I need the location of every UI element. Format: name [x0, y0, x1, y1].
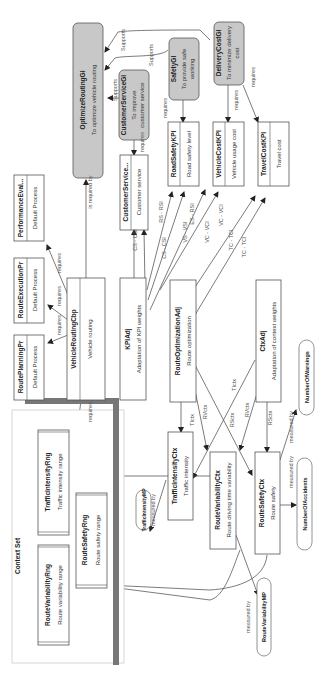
adjustment-kpi[interactable]: KPIAdj Adaptation of KPI weights — [120, 278, 146, 400]
svg-text:TrafficIntensityRng: TrafficIntensityRng — [44, 453, 52, 512]
kpi-travel-cost[interactable]: TravelCostKPI Travel cost — [258, 122, 289, 186]
svg-text:NumberOfAccidents: NumberOfAccidents — [302, 477, 308, 530]
goal-optimize-routing[interactable]: OptimizeRoutingGl To optimize vehicle ro… — [73, 23, 103, 178]
context-set: Context Set RouteVariabilityRng Route va… — [12, 398, 124, 665]
svg-text:measured by: measured by — [245, 601, 251, 633]
svg-text:CtxAdj: CtxAdj — [259, 330, 267, 351]
range-route-safety[interactable]: RouteSafetyRng Route safety range — [76, 493, 107, 588]
svg-text:requires: requires — [56, 253, 62, 273]
svg-text:TrafficIntensityMP: TrafficIntensityMP — [141, 488, 147, 532]
process-route-planning[interactable]: RoutePlanningPr Default Process — [14, 335, 44, 400]
svg-text:CustomerService...: CustomerService... — [122, 162, 129, 221]
svg-text:Road safety level: Road safety level — [186, 131, 192, 177]
process-performance-eval[interactable]: PerformanceEval... Default Process — [14, 175, 44, 241]
svg-text:requires: requires — [87, 402, 93, 422]
svg-text:VehicleCostKPI: VehicleCostKPI — [215, 130, 222, 178]
svg-text:To optimize vehicle routing: To optimize vehicle routing — [91, 65, 97, 136]
svg-text:Default Process: Default Process — [32, 346, 38, 388]
context-route-variability[interactable]: RouteVariabilityCtx Route driving time v… — [210, 452, 236, 549]
svg-text:TIctx: TIctx — [231, 379, 237, 391]
kpi-customer-service[interactable]: CustomerService... Customer service — [120, 155, 148, 230]
svg-text:requires: requires — [162, 98, 168, 118]
goal-delivery-cost[interactable]: DeliveryCostGl To minimize delivery cost — [214, 22, 244, 85]
capability-vehicle-routing[interactable]: VehicleRoutingCbp Vehicle routing — [67, 278, 105, 400]
process-route-execution[interactable]: RouteExecutionPr Default Process — [14, 258, 44, 323]
kpi-vehicle-cost[interactable]: VehicleCostKPI Vehicle usage cost — [213, 122, 244, 186]
svg-text:Vehicle usage cost: Vehicle usage cost — [231, 129, 237, 179]
svg-text:TIctx: TIctx — [189, 414, 195, 426]
svg-text:SafetyGl: SafetyGl — [170, 56, 178, 83]
measure-route-variability[interactable]: RouteVariabilityMP — [257, 578, 271, 656]
svg-text:RouteSafetyCtx: RouteSafetyCtx — [258, 478, 266, 527]
svg-text:Traffic intensity range: Traffic intensity range — [57, 453, 63, 511]
svg-text:VS - VSI: VS - VSI — [182, 221, 188, 243]
svg-text:working: working — [189, 59, 195, 81]
svg-text:To provide safe: To provide safe — [181, 48, 187, 89]
svg-text:Route driving time variability: Route driving time variability — [226, 462, 232, 537]
svg-text:Customer service: Customer service — [136, 168, 142, 215]
svg-text:CS - CSI: CS - CSI — [161, 237, 167, 259]
goal-model-diagram: Context Set RouteVariabilityRng Route va… — [0, 0, 332, 681]
svg-text:RouteVariabilityCtx: RouteVariabilityCtx — [214, 470, 222, 530]
svg-text:NumberOfWarnings: NumberOfWarnings — [304, 351, 310, 403]
measure-number-of-accidents[interactable]: NumberOfAccidents — [297, 458, 312, 550]
svg-text:requires: requires — [56, 286, 62, 306]
svg-text:OptimizeRoutingGl: OptimizeRoutingGl — [79, 70, 87, 129]
context-traffic-intensity[interactable]: TrafficIntensityCtx Traffic intensity — [168, 432, 193, 520]
svg-text:requires: requires — [250, 67, 256, 87]
svg-text:Adaptation of context weights: Adaptation of context weights — [271, 302, 277, 380]
svg-text:measured by: measured by — [288, 411, 294, 443]
svg-text:RVctx: RVctx — [202, 404, 208, 419]
measure-number-of-warnings[interactable]: NumberOfWarnings — [299, 340, 314, 415]
measure-traffic-intensity[interactable]: TrafficIntensityMP — [136, 488, 151, 532]
svg-text:RouteSafetyRng: RouteSafetyRng — [81, 515, 89, 566]
svg-text:DeliveryCostGl: DeliveryCostGl — [215, 30, 223, 77]
svg-text:VehicleRoutingCbp: VehicleRoutingCbp — [70, 309, 78, 369]
svg-text:Traffic intensity: Traffic intensity — [183, 456, 189, 496]
svg-text:RoadSafetyKPI: RoadSafetyKPI — [170, 131, 178, 178]
goal-customer-service[interactable]: CustomerServiceGl To improve customer se… — [119, 70, 149, 140]
svg-text:VC - VCI: VC - VCI — [204, 221, 210, 243]
context-set-title: Context Set — [14, 537, 21, 574]
svg-text:Travel cost: Travel cost — [276, 139, 282, 168]
svg-text:KPIAdj: KPIAdj — [124, 328, 132, 350]
svg-text:RouteVariabilityMP: RouteVariabilityMP — [261, 592, 267, 642]
svg-text:cost: cost — [234, 47, 240, 58]
svg-text:CustomerServiceGl: CustomerServiceGl — [120, 75, 127, 136]
svg-text:RouteExecutionPr: RouteExecutionPr — [17, 261, 24, 318]
svg-text:RoutePlanningPr: RoutePlanningPr — [17, 340, 25, 393]
svg-text:Supports: Supports — [120, 29, 126, 51]
range-traffic-intensity[interactable]: TrafficIntensityRng Traffic intensity ra… — [38, 430, 69, 535]
svg-text:VC - VCI: VC - VCI — [218, 204, 224, 226]
svg-text:ES - RSI: ES - RSI — [189, 203, 195, 225]
svg-text:PerformanceEval...: PerformanceEval... — [17, 179, 24, 238]
svg-text:Default Process: Default Process — [32, 187, 38, 229]
svg-text:Supports: Supports — [148, 44, 154, 66]
svg-text:Adaptation of KPI weights: Adaptation of KPI weights — [136, 305, 142, 374]
svg-text:Route safety range: Route safety range — [95, 514, 101, 565]
svg-text:Supports: Supports — [112, 79, 118, 101]
svg-text:Route safety: Route safety — [270, 486, 276, 520]
svg-text:measured by: measured by — [288, 456, 294, 488]
adjustment-route-optimization[interactable]: RouteOptimizationAdj Route optimization — [170, 280, 196, 402]
svg-text:To minimize delivery: To minimize delivery — [226, 26, 232, 80]
svg-text:TrafficIntensityCtx: TrafficIntensityCtx — [171, 447, 179, 504]
svg-text:RouteOptimizationAdj: RouteOptimizationAdj — [174, 307, 182, 375]
svg-text:Route optimization: Route optimization — [186, 316, 192, 366]
svg-text:RouteVariabilityRng: RouteVariabilityRng — [44, 564, 52, 626]
svg-text:TC - TCI: TC - TCI — [228, 229, 234, 250]
svg-text:Vehicle routing: Vehicle routing — [87, 319, 93, 358]
svg-text:CS - CSI: CS - CSI — [132, 229, 138, 251]
svg-text:RSctx: RSctx — [229, 412, 235, 427]
svg-text:RSctx: RSctx — [267, 410, 273, 425]
adjustment-ctx[interactable]: CtxAdj Adaptation of context weights — [256, 280, 281, 402]
goal-safety[interactable]: SafetyGl To provide safe working — [169, 38, 199, 100]
svg-text:measured by: measured by — [150, 494, 156, 526]
kpi-road-safety[interactable]: RoadSafetyKPI Road safety level — [168, 122, 199, 186]
range-route-variability[interactable]: RouteVariabilityRng Route variability ra… — [38, 545, 69, 645]
svg-text:RVctx: RVctx — [244, 402, 250, 417]
svg-text:Route variability range: Route variability range — [57, 564, 63, 624]
svg-text:requires: requires — [139, 132, 145, 152]
svg-text:RS - RSI: RS - RSI — [158, 201, 164, 223]
context-route-safety[interactable]: RouteSafetyCtx Route safety — [255, 452, 280, 554]
